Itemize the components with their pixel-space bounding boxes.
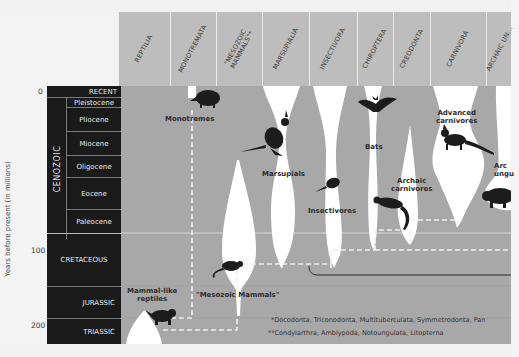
period-cretaceous: CRETACEOUS — [47, 233, 121, 286]
epoch-oligocene: Oligocene — [67, 155, 121, 177]
period-triassic: TRIASSIC — [47, 318, 121, 344]
epoch-paleocene: Paleocene — [67, 209, 121, 233]
geologic-timescale: RECENT CENOZOIC Pleistocene Pliocene Mio… — [47, 86, 121, 344]
label-insectivores: Insectivores — [308, 207, 356, 215]
bracket-line — [309, 266, 511, 275]
label-bats: Bats — [365, 143, 383, 151]
bat-icon — [358, 95, 397, 112]
label-mammal-like-reptiles: Mammal-likereptiles — [127, 287, 177, 303]
label-mesozoic-mammals: "Mesozoic Mammals" — [196, 291, 279, 299]
label-advanced-carnivores: Advancedcarnivores — [436, 109, 477, 125]
period-jurassic: JURASSIC — [47, 286, 121, 318]
insectivora-spindle — [313, 86, 347, 268]
epoch-pleistocene: Pleistocene — [67, 97, 121, 107]
monotremata-stub — [188, 86, 196, 98]
label-marsupials: Marsupials — [262, 170, 305, 178]
carnivora-spindle — [433, 86, 485, 228]
label-archaic-ungulates: Arcungu — [494, 162, 514, 178]
bottom-margin — [0, 344, 511, 357]
tick-0: 0 — [38, 87, 43, 96]
tick-200: 200 — [31, 321, 45, 330]
footnote-double-asterisk: **Condylarthra, Amblypoda, Notoungulata,… — [268, 329, 444, 337]
footnote-single-asterisk: *Docodonta, Triconodonta, Multitubercula… — [271, 316, 485, 324]
era-cenozoic: CENOZOIC — [47, 97, 67, 239]
epoch-eocene: Eocene — [67, 177, 121, 209]
label-monotremes: Monotremes — [165, 115, 214, 123]
era-recent: RECENT — [47, 86, 121, 97]
label-archaic-carnivores: Archaiccarnivores — [391, 177, 432, 193]
epoch-pliocene: Pliocene — [67, 107, 121, 131]
tick-100: 100 — [31, 246, 45, 255]
epoch-miocene: Miocene — [67, 131, 121, 155]
y-axis-label: Years before present (in millions) — [4, 149, 12, 289]
